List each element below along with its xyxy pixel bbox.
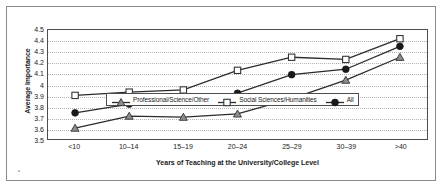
y-tick-label: 4.3: [24, 48, 44, 55]
legend-item[interactable]: Social Sciences/Humanities: [217, 94, 317, 105]
legend-item-label: Social Sciences/Humanities: [239, 96, 317, 103]
x-tick-label: 25–29: [282, 143, 301, 150]
x-axis-title: Years of Teaching at the University/Coll…: [47, 159, 428, 166]
data-point: [343, 56, 349, 62]
legend-item-label: All: [347, 96, 354, 103]
x-tick-label: <10: [68, 143, 80, 150]
y-tick-label: 4.5: [24, 26, 44, 33]
data-point: [342, 76, 350, 83]
legend-item-label: Professional/Science/Other: [133, 96, 209, 103]
y-axis-tick-labels: 4.54.44.34.24.143.93.83.73.63.5: [22, 29, 44, 140]
y-tick-label: 3.9: [24, 92, 44, 99]
legend-marker-filled-circle-icon: [325, 94, 345, 105]
y-tick-label: 4.4: [24, 37, 44, 44]
data-point: [72, 110, 79, 117]
y-tick-label: 3.6: [24, 125, 44, 132]
x-tick-label: 30–39: [337, 143, 356, 150]
chart-legend: Professional/Science/OtherSocial Science…: [106, 93, 359, 106]
data-point: [397, 43, 404, 50]
legend-item[interactable]: All: [325, 94, 354, 105]
x-tick-label: >40: [395, 143, 407, 150]
series-layer: [48, 30, 427, 139]
legend-marker-open-square-icon: [217, 94, 237, 105]
x-tick-label: 10–14: [119, 143, 138, 150]
data-point: [72, 92, 78, 98]
chart-figure: Average Importance 4.54.44.34.24.143.93.…: [0, 0, 444, 192]
data-point: [342, 66, 349, 73]
x-tick-label: 15–19: [173, 143, 192, 150]
data-point: [396, 53, 404, 60]
x-axis-tick-labels: <1010–1415–1920–2425–2930–39>40: [47, 143, 428, 155]
y-tick-label: 4.1: [24, 70, 44, 77]
legend-marker-triangle-icon: [111, 94, 131, 105]
y-tick-label: 3.8: [24, 103, 44, 110]
legend-item[interactable]: Professional/Science/Other: [111, 94, 209, 105]
y-tick-label: 4: [24, 81, 44, 88]
plot-area: [47, 29, 428, 140]
y-tick-label: 3.7: [24, 114, 44, 121]
series-open-square: [72, 36, 403, 99]
y-tick-label: 3.5: [24, 137, 44, 144]
data-point: [288, 54, 294, 60]
data-point: [397, 36, 403, 42]
y-tick-label: 4.2: [24, 59, 44, 66]
data-point: [288, 71, 295, 78]
page-speck: [18, 170, 20, 172]
x-tick-label: 20–24: [228, 143, 247, 150]
data-point: [234, 67, 240, 73]
